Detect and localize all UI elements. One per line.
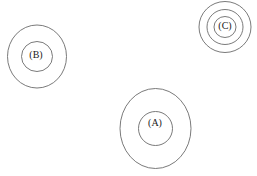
group-c-label: (C) bbox=[218, 20, 231, 32]
group-a-label: (A) bbox=[148, 117, 162, 129]
concentric-circles-figure: (B)(C)(A) bbox=[0, 0, 257, 176]
group-b-label: (B) bbox=[29, 49, 42, 61]
figure-canvas: (B)(C)(A) bbox=[0, 0, 257, 176]
group-c[interactable]: (C) bbox=[199, 2, 251, 53]
